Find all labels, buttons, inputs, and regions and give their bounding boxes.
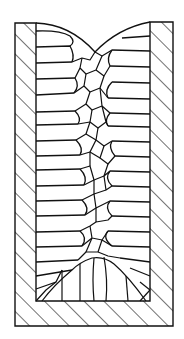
ingot-diagram: Ingot solidification grain structure in … [0,0,184,339]
right-columnar-zone [106,36,150,290]
diagram-canvas [0,0,184,339]
bottom-cone-zone [36,257,150,301]
